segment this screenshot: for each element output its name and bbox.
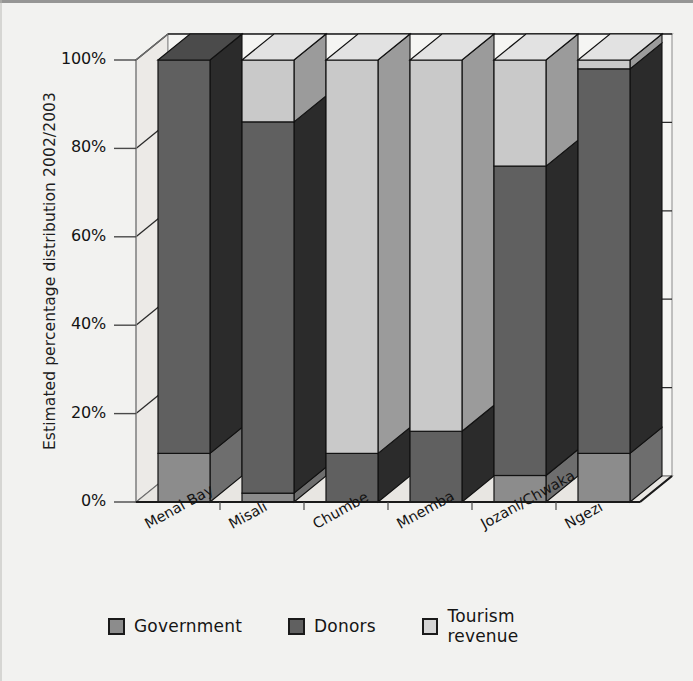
legend-swatch-government	[108, 618, 125, 635]
y-axis-tick-60: 60%	[32, 226, 106, 245]
legend-swatch-donors	[288, 618, 305, 635]
chart-legend: Government Donors Tourism revenue	[108, 606, 588, 646]
legend-item-donors[interactable]: Donors	[288, 616, 376, 636]
legend-item-tourism-revenue[interactable]: Tourism revenue	[422, 606, 588, 646]
legend-label-donors: Donors	[314, 616, 376, 636]
y-axis-tick-100: 100%	[32, 49, 106, 68]
y-axis-tick-0: 0%	[32, 491, 106, 510]
y-axis-tick-80: 80%	[32, 137, 106, 156]
chart-bars	[158, 34, 662, 502]
chart-canvas	[0, 0, 693, 681]
legend-label-government: Government	[134, 616, 242, 636]
chart-page: Estimated percentage distribution 2002/2…	[0, 0, 693, 681]
y-axis-tick-20: 20%	[32, 403, 106, 422]
legend-item-government[interactable]: Government	[108, 616, 242, 636]
stacked-bar-chart: Estimated percentage distribution 2002/2…	[0, 0, 693, 681]
legend-swatch-tourism	[422, 618, 439, 635]
y-axis-tick-40: 40%	[32, 314, 106, 333]
legend-label-tourism-revenue: Tourism revenue	[447, 606, 588, 646]
